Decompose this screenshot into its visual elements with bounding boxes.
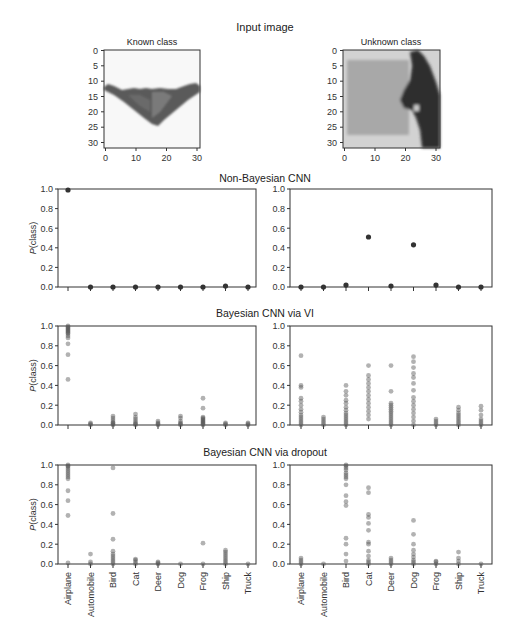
svg-text:Ship: Ship (221, 572, 231, 590)
svg-text:0.2: 0.2 (272, 540, 285, 550)
probability-scatter-plots: 0.00.20.40.60.81.0P(class)0.00.20.40.60.… (0, 0, 519, 637)
svg-text:0.4: 0.4 (40, 520, 53, 530)
svg-text:0.4: 0.4 (40, 381, 53, 391)
svg-text:Deer: Deer (153, 572, 163, 592)
svg-text:0.4: 0.4 (272, 381, 285, 391)
svg-text:1.0: 1.0 (272, 184, 285, 194)
svg-text:P(class): P(class) (28, 222, 38, 255)
svg-text:Deer: Deer (386, 572, 396, 592)
svg-text:0.0: 0.0 (272, 559, 285, 569)
svg-text:Dog: Dog (176, 572, 186, 589)
svg-text:0.6: 0.6 (40, 224, 53, 234)
svg-text:0.6: 0.6 (272, 224, 285, 234)
svg-text:Cat: Cat (131, 572, 141, 587)
svg-text:0.0: 0.0 (40, 420, 53, 430)
svg-text:0.0: 0.0 (272, 420, 285, 430)
svg-text:1.0: 1.0 (40, 184, 53, 194)
svg-text:0.2: 0.2 (272, 401, 285, 411)
svg-text:Airplane: Airplane (63, 572, 73, 605)
svg-text:Bird: Bird (341, 572, 351, 588)
svg-text:Frog: Frog (198, 572, 208, 591)
svg-text:Truck: Truck (476, 572, 486, 595)
svg-text:Dog: Dog (409, 572, 419, 589)
svg-text:Ship: Ship (454, 572, 464, 590)
svg-text:0.4: 0.4 (272, 520, 285, 530)
svg-text:0.8: 0.8 (272, 204, 285, 214)
svg-text:Automobile: Automobile (86, 572, 96, 617)
svg-text:1.0: 1.0 (40, 460, 53, 470)
svg-text:0.8: 0.8 (40, 480, 53, 490)
scatter-plot-6: 0.00.20.40.60.81.0AirplaneAutomobileBird… (272, 460, 492, 617)
svg-text:0.6: 0.6 (40, 361, 53, 371)
svg-text:0.0: 0.0 (272, 282, 285, 292)
scatter-plot-4: 0.00.20.40.60.81.0 (272, 321, 492, 430)
scatter-plot-3: 0.00.20.40.60.81.0P(class) (28, 321, 256, 430)
svg-text:1.0: 1.0 (272, 321, 285, 331)
svg-text:0.2: 0.2 (40, 401, 53, 411)
svg-text:1.0: 1.0 (272, 460, 285, 470)
svg-text:0.0: 0.0 (40, 282, 53, 292)
svg-text:Cat: Cat (364, 572, 374, 587)
svg-text:0.6: 0.6 (272, 361, 285, 371)
svg-text:1.0: 1.0 (40, 321, 53, 331)
svg-text:P(class): P(class) (28, 498, 38, 531)
scatter-plot-2: 0.00.20.40.60.81.0 (272, 184, 492, 292)
svg-text:Automobile: Automobile (319, 572, 329, 617)
svg-text:0.8: 0.8 (272, 480, 285, 490)
svg-text:Truck: Truck (243, 572, 253, 595)
svg-text:Bird: Bird (108, 572, 118, 588)
svg-text:0.4: 0.4 (272, 243, 285, 253)
svg-text:0.8: 0.8 (272, 341, 285, 351)
svg-text:0.2: 0.2 (40, 263, 53, 273)
svg-text:0.6: 0.6 (272, 500, 285, 510)
scatter-plot-5: 0.00.20.40.60.81.0P(class)AirplaneAutomo… (28, 460, 256, 617)
svg-text:0.4: 0.4 (40, 243, 53, 253)
svg-text:0.2: 0.2 (272, 263, 285, 273)
scatter-plot-1: 0.00.20.40.60.81.0P(class) (28, 184, 256, 292)
svg-text:Frog: Frog (431, 572, 441, 591)
svg-text:Airplane: Airplane (296, 572, 306, 605)
svg-text:0.2: 0.2 (40, 540, 53, 550)
svg-text:0.0: 0.0 (40, 559, 53, 569)
svg-text:0.8: 0.8 (40, 204, 53, 214)
svg-text:0.8: 0.8 (40, 341, 53, 351)
svg-text:P(class): P(class) (28, 359, 38, 392)
svg-text:0.6: 0.6 (40, 500, 53, 510)
